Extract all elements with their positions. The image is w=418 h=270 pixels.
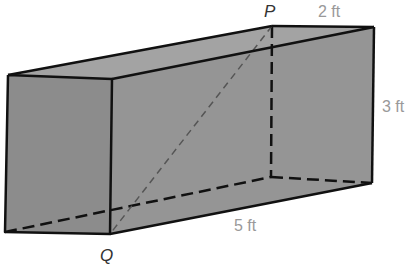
dimension-label-width: 2 ft bbox=[318, 3, 341, 20]
top-back-edge bbox=[272, 26, 374, 27]
front-face bbox=[5, 75, 112, 234]
dimension-label-height: 3 ft bbox=[382, 98, 405, 115]
vertex-label-q: Q bbox=[100, 246, 113, 265]
vertex-label-p: P bbox=[264, 2, 276, 21]
dimension-label-length: 5 ft bbox=[234, 217, 257, 234]
prism-diagram: P Q 2 ft 3 ft 5 ft bbox=[0, 0, 418, 270]
